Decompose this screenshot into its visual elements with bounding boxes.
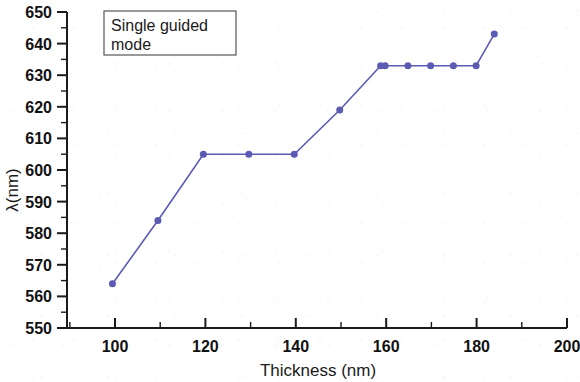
lambda-vs-thickness-chart: 650 640 630 620 610 600 590 580 570 560 … bbox=[0, 0, 580, 382]
y-tick-label: 650 bbox=[25, 4, 52, 21]
y-axis-label: λ(nm) bbox=[3, 168, 22, 211]
y-tick-label: 630 bbox=[25, 67, 52, 84]
data-point bbox=[336, 106, 343, 113]
y-tick-label: 570 bbox=[25, 257, 52, 274]
x-tick-label: 120 bbox=[192, 338, 219, 355]
y-tick-label: 620 bbox=[25, 99, 52, 116]
annotation-box: Single guided mode bbox=[104, 11, 236, 55]
y-tick-label: 640 bbox=[25, 36, 52, 53]
data-point bbox=[200, 151, 207, 158]
y-tick-label: 550 bbox=[25, 320, 52, 337]
x-axis-label: Thickness (nm) bbox=[260, 361, 376, 380]
data-point bbox=[382, 62, 389, 69]
annotation-line-1: Single guided bbox=[111, 17, 208, 34]
x-tick-label: 200 bbox=[554, 338, 580, 355]
x-tick-label: 100 bbox=[102, 338, 129, 355]
y-tick-label: 600 bbox=[25, 162, 52, 179]
x-tick-label: 160 bbox=[373, 338, 400, 355]
data-point bbox=[245, 151, 252, 158]
data-point bbox=[291, 151, 298, 158]
chart-background bbox=[0, 0, 580, 382]
data-point bbox=[473, 62, 480, 69]
data-point bbox=[491, 31, 498, 38]
data-point bbox=[427, 62, 434, 69]
data-point bbox=[404, 62, 411, 69]
y-tick-label: 560 bbox=[25, 288, 52, 305]
data-point bbox=[154, 217, 161, 224]
data-point bbox=[450, 62, 457, 69]
data-point bbox=[109, 280, 116, 287]
chart-figure: 650 640 630 620 610 600 590 580 570 560 … bbox=[0, 0, 580, 382]
annotation-line-2: mode bbox=[111, 36, 151, 53]
x-tick-label: 140 bbox=[282, 338, 309, 355]
y-tick-label: 590 bbox=[25, 194, 52, 211]
y-tick-label: 610 bbox=[25, 130, 52, 147]
x-tick-label: 180 bbox=[463, 338, 490, 355]
y-tick-label: 580 bbox=[25, 225, 52, 242]
